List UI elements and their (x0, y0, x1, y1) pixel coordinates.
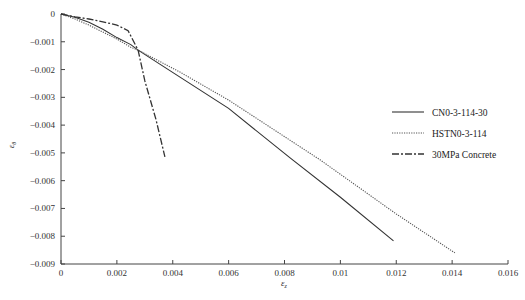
legend-label: 30MPa Concrete (432, 150, 496, 160)
series-layer (61, 14, 455, 253)
legend-label: HSTN0-3-114 (432, 129, 487, 139)
x-tick-label: 0.014 (442, 268, 463, 278)
chart: 00.0020.0040.0060.0080.010.0120.0140.016… (0, 0, 525, 300)
legend-label: CN0-3-114-30 (432, 108, 488, 118)
y-tick-label: −0.003 (30, 92, 56, 102)
y-tick-label: −0.008 (30, 231, 56, 241)
series-line-1 (61, 14, 394, 241)
x-tick-label: 0.012 (386, 268, 406, 278)
x-tick-label: 0.004 (163, 268, 184, 278)
x-tick-label: 0.008 (274, 268, 295, 278)
y-tick-label: −0.002 (30, 65, 55, 75)
y-axis-label: εθ (6, 142, 17, 149)
y-tick-label: −0.001 (30, 37, 55, 47)
axes (61, 14, 508, 264)
series-line-2 (61, 14, 455, 253)
x-tick-label: 0.01 (333, 268, 349, 278)
x-axis-label: εz (281, 278, 288, 289)
x-axis-ticks: 00.0020.0040.0060.0080.010.0120.0140.016 (59, 260, 519, 278)
y-tick-label: −0.005 (30, 148, 56, 158)
y-axis-ticks: 0−0.001−0.002−0.003−0.004−0.005−0.006−0.… (30, 9, 65, 269)
y-tick-label: −0.007 (30, 203, 56, 213)
legend: CN0-3-114-30HSTN0-3-11430MPa Concrete (392, 108, 496, 160)
x-tick-label: 0.002 (107, 268, 127, 278)
y-tick-label: −0.004 (30, 120, 56, 130)
y-tick-label: 0 (51, 9, 56, 19)
x-tick-label: 0 (59, 268, 64, 278)
x-tick-label: 0.016 (498, 268, 519, 278)
y-tick-label: −0.006 (30, 176, 56, 186)
y-tick-label: −0.009 (30, 259, 56, 269)
x-tick-label: 0.006 (219, 268, 240, 278)
